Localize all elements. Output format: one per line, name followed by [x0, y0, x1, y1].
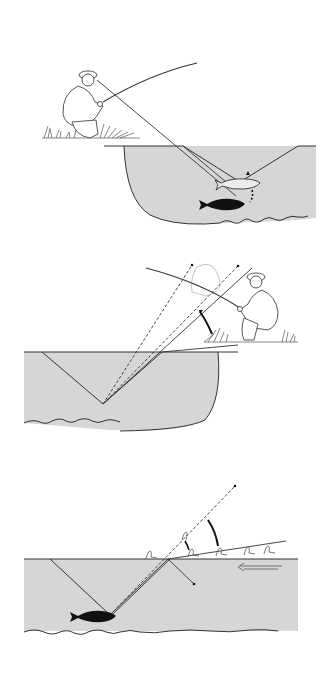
- fishing-rod: [146, 268, 240, 308]
- arrow-tip: [191, 264, 194, 267]
- refracted-line: [162, 345, 238, 352]
- panel-2: [24, 264, 298, 431]
- angler: [63, 71, 103, 138]
- arrow-tip-2: [237, 265, 240, 268]
- arrow-tip: [234, 485, 237, 488]
- water-body: [24, 352, 219, 431]
- water-body: [24, 559, 298, 631]
- angler: [238, 273, 279, 340]
- angler-apparent-ghost: [192, 264, 221, 296]
- fish-vision-diagram: [0, 0, 335, 682]
- curved-arrow: [200, 312, 212, 334]
- fishing-rod: [103, 63, 197, 102]
- panel-3: [24, 485, 298, 635]
- curved-arrow: [208, 520, 218, 546]
- curved-arrow-small: [185, 541, 189, 550]
- panel-1: [42, 63, 316, 224]
- reflection-arrow-tip: [193, 583, 196, 586]
